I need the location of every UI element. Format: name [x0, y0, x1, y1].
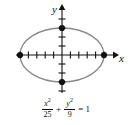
- numerator-exponent-x: 2: [48, 97, 51, 103]
- fraction-numerator-x: x2: [43, 100, 52, 109]
- fraction-denominator-9: 9: [67, 110, 73, 119]
- ellipse-figure: x y x2 25 + y2 9 = 1: [0, 0, 132, 125]
- covertex-point-top: [59, 25, 65, 31]
- fraction-y-squared-over-9: y2 9: [64, 100, 75, 119]
- x-axis-label: x: [119, 53, 124, 64]
- ellipse-plot: [0, 0, 132, 100]
- fraction-numerator-y: y2: [65, 100, 74, 109]
- equation-row: x2 25 + y2 9 = 1: [42, 100, 90, 119]
- vertex-point-left: [17, 52, 23, 58]
- numerator-exponent-y: 2: [70, 97, 73, 103]
- fraction-denominator-25: 25: [43, 110, 53, 119]
- ellipse-equation: x2 25 + y2 9 = 1: [0, 99, 132, 119]
- y-axis-label: y: [52, 4, 57, 15]
- vertex-point-right: [101, 52, 107, 58]
- y-axis-arrowhead: [59, 4, 66, 10]
- plus-operator: +: [55, 105, 62, 114]
- equation-right-hand-side: = 1: [77, 105, 90, 114]
- fraction-x-squared-over-25: x2 25: [42, 100, 53, 119]
- covertex-point-bottom: [59, 79, 65, 85]
